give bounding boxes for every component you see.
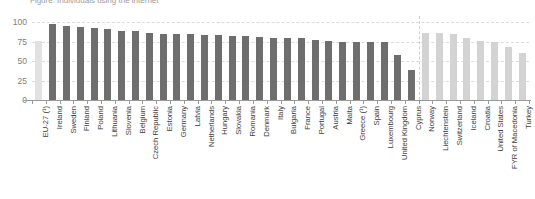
x-axis-label: United States [497, 106, 505, 152]
x-axis-label: Poland [97, 106, 105, 130]
x-tick [363, 100, 364, 104]
x-axis-label: Malta [346, 106, 354, 125]
x-axis-labels: EU-27 (¹)IrelandSwedenFinlandPolandLithu… [32, 106, 529, 199]
bar [463, 38, 470, 100]
bar-chart: Figure: Individuals using the internet 0… [0, 0, 535, 199]
bar [229, 36, 236, 100]
bar [215, 35, 222, 100]
x-axis-label: FYR of Macedonia [511, 106, 519, 169]
bar [63, 26, 70, 100]
y-axis: 0255075100 [0, 16, 30, 106]
x-axis-label: Hungary [221, 106, 229, 135]
x-tick [515, 100, 516, 104]
bars-group [32, 16, 529, 100]
bar [270, 38, 277, 100]
bar [284, 38, 291, 100]
x-axis-ticks [32, 100, 529, 105]
x-tick [253, 100, 254, 104]
x-tick [101, 100, 102, 104]
bar [312, 40, 319, 100]
bar [325, 41, 332, 100]
x-axis-label: Liechtenstein [442, 106, 450, 151]
x-tick [474, 100, 475, 104]
chart-title: Figure: Individuals using the internet [30, 0, 330, 6]
bar [49, 24, 56, 100]
x-tick [460, 100, 461, 104]
x-tick [211, 100, 212, 104]
x-axis-label: Italy [277, 106, 285, 120]
x-tick [446, 100, 447, 104]
x-axis-label: Slovakia [235, 106, 243, 135]
x-axis-label: France [304, 106, 312, 130]
x-tick [432, 100, 433, 104]
x-axis-label: Sweden [70, 106, 78, 133]
x-tick [46, 100, 47, 104]
x-tick [419, 100, 420, 104]
bar [408, 70, 415, 100]
bar [35, 41, 42, 100]
x-axis-label: Turkey [525, 106, 533, 129]
x-axis-label: Norway [428, 106, 436, 132]
y-tick-label-100: 100 [13, 18, 27, 27]
x-axis-label: Spain [373, 106, 381, 125]
bar [422, 33, 429, 100]
bar [394, 55, 401, 100]
x-tick [308, 100, 309, 104]
bar [146, 33, 153, 100]
bar [132, 31, 139, 100]
x-tick [529, 100, 530, 104]
x-axis-label: Netherlands [208, 106, 216, 147]
bar [256, 37, 263, 100]
x-tick [281, 100, 282, 104]
bar [353, 42, 360, 100]
group-divider [419, 16, 420, 100]
bar [367, 42, 374, 100]
bar [242, 36, 249, 100]
x-tick [501, 100, 502, 104]
x-tick [322, 100, 323, 104]
x-tick [87, 100, 88, 104]
x-axis-label: Belgium [139, 106, 147, 133]
x-axis-label: Austria [332, 106, 340, 130]
bar [477, 41, 484, 100]
x-tick [336, 100, 337, 104]
bar [201, 35, 208, 100]
x-tick [184, 100, 185, 104]
bar [118, 31, 125, 100]
bar [104, 29, 111, 100]
x-axis-label: Switzerland [456, 106, 464, 145]
x-tick [156, 100, 157, 104]
x-tick [32, 100, 33, 104]
bar [160, 34, 167, 100]
x-tick [488, 100, 489, 104]
x-tick [115, 100, 116, 104]
x-axis-label: Germany [180, 106, 188, 137]
bar [187, 34, 194, 100]
bar [173, 34, 180, 100]
y-tick-label-75: 75 [18, 37, 27, 46]
x-axis-label: Lithuania [111, 106, 119, 137]
x-axis-label: Iceland [470, 106, 478, 131]
x-axis-label: Greece (¹) [359, 106, 367, 141]
y-tick-label-25: 25 [18, 76, 27, 85]
x-axis-label: Luxembourg [387, 106, 395, 148]
x-tick [198, 100, 199, 104]
x-tick [129, 100, 130, 104]
bar [491, 42, 498, 101]
x-axis-label: Romania [249, 106, 257, 136]
x-tick [350, 100, 351, 104]
y-tick-label-50: 50 [18, 57, 27, 66]
x-tick [170, 100, 171, 104]
bar [298, 38, 305, 100]
bar [339, 42, 346, 101]
bar [450, 34, 457, 100]
bar [519, 53, 526, 100]
bar [505, 47, 512, 100]
x-axis-label: Portugal [318, 106, 326, 134]
x-tick [294, 100, 295, 104]
bar [77, 27, 84, 100]
bar [381, 42, 388, 100]
x-tick [60, 100, 61, 104]
x-tick [405, 100, 406, 104]
x-axis-label: EU-27 (¹) [42, 106, 50, 137]
